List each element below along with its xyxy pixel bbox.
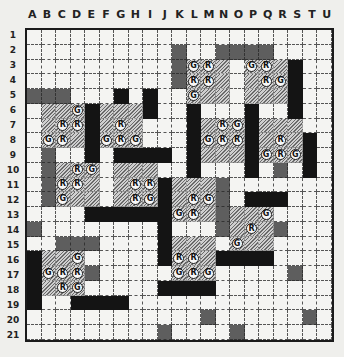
- g-token-icon[interactable]: G: [188, 90, 199, 101]
- board-cell-k5[interactable]: [172, 89, 187, 104]
- board-cell-s13[interactable]: [288, 207, 303, 222]
- board-cell-k6[interactable]: [172, 104, 187, 119]
- board-cell-i11[interactable]: R: [143, 178, 158, 193]
- board-cell-j9[interactable]: [158, 148, 173, 163]
- board-cell-i5[interactable]: [143, 89, 158, 104]
- board-cell-a16[interactable]: [27, 251, 42, 266]
- board-cell-u14[interactable]: [317, 222, 332, 237]
- board-cell-f17[interactable]: [100, 266, 115, 281]
- game-board[interactable]: GRGRRRRGGGRRRRGGRGRGGRRRGRGRGRRRRGRGRGGR…: [25, 28, 334, 342]
- board-cell-b14[interactable]: [42, 222, 57, 237]
- board-cell-a15[interactable]: [27, 237, 42, 252]
- board-cell-r16[interactable]: [274, 251, 289, 266]
- board-cell-o10[interactable]: [230, 163, 245, 178]
- board-cell-a1[interactable]: [27, 30, 42, 45]
- g-token-icon[interactable]: G: [232, 238, 243, 249]
- board-cell-f1[interactable]: [100, 30, 115, 45]
- board-cell-q17[interactable]: [259, 266, 274, 281]
- board-cell-s4[interactable]: [288, 74, 303, 89]
- g-token-icon[interactable]: G: [261, 149, 272, 160]
- board-cell-t15[interactable]: [303, 237, 318, 252]
- board-cell-l12[interactable]: R: [187, 192, 202, 207]
- board-cell-t9[interactable]: [303, 148, 318, 163]
- board-cell-s6[interactable]: [288, 104, 303, 119]
- board-cell-j3[interactable]: [158, 60, 173, 75]
- board-cell-r4[interactable]: G: [274, 74, 289, 89]
- board-cell-i10[interactable]: [143, 163, 158, 178]
- board-cell-h21[interactable]: [129, 325, 144, 340]
- board-cell-k20[interactable]: [172, 310, 187, 325]
- board-cell-d18[interactable]: G: [71, 281, 86, 296]
- board-cell-k2[interactable]: [172, 45, 187, 60]
- g-token-icon[interactable]: G: [275, 76, 286, 87]
- board-cell-o21[interactable]: [230, 325, 245, 340]
- r-token-icon[interactable]: R: [275, 149, 286, 160]
- board-cell-c2[interactable]: [56, 45, 71, 60]
- g-token-icon[interactable]: G: [290, 149, 301, 160]
- board-cell-p19[interactable]: [245, 296, 260, 311]
- board-cell-j16[interactable]: [158, 251, 173, 266]
- board-cell-r8[interactable]: R: [274, 133, 289, 148]
- board-cell-d19[interactable]: [71, 296, 86, 311]
- board-cell-i19[interactable]: [143, 296, 158, 311]
- board-cell-l2[interactable]: [187, 45, 202, 60]
- r-token-icon[interactable]: R: [261, 61, 272, 72]
- board-cell-r9[interactable]: R: [274, 148, 289, 163]
- board-cell-t10[interactable]: [303, 163, 318, 178]
- board-cell-d20[interactable]: [71, 310, 86, 325]
- board-cell-j17[interactable]: [158, 266, 173, 281]
- board-cell-c9[interactable]: [56, 148, 71, 163]
- board-cell-m10[interactable]: [201, 163, 216, 178]
- board-cell-n11[interactable]: [216, 178, 231, 193]
- board-cell-u18[interactable]: [317, 281, 332, 296]
- board-cell-o2[interactable]: [230, 45, 245, 60]
- board-cell-k15[interactable]: [172, 237, 187, 252]
- r-token-icon[interactable]: R: [130, 179, 141, 190]
- board-cell-o15[interactable]: G: [230, 237, 245, 252]
- board-cell-o7[interactable]: G: [230, 119, 245, 134]
- board-cell-q8[interactable]: [259, 133, 274, 148]
- board-cell-l8[interactable]: [187, 133, 202, 148]
- board-cell-t17[interactable]: [303, 266, 318, 281]
- board-cell-o11[interactable]: [230, 178, 245, 193]
- r-token-icon[interactable]: R: [57, 120, 68, 131]
- board-cell-s14[interactable]: [288, 222, 303, 237]
- board-cell-q18[interactable]: [259, 281, 274, 296]
- board-cell-h11[interactable]: R: [129, 178, 144, 193]
- board-cell-j5[interactable]: [158, 89, 173, 104]
- board-cell-k7[interactable]: [172, 119, 187, 134]
- board-cell-a14[interactable]: [27, 222, 42, 237]
- board-cell-h12[interactable]: R: [129, 192, 144, 207]
- board-cell-a18[interactable]: [27, 281, 42, 296]
- board-cell-e1[interactable]: [85, 30, 100, 45]
- board-cell-f11[interactable]: [100, 178, 115, 193]
- board-cell-a5[interactable]: [27, 89, 42, 104]
- board-cell-c7[interactable]: R: [56, 119, 71, 134]
- board-cell-p4[interactable]: [245, 74, 260, 89]
- board-cell-k18[interactable]: [172, 281, 187, 296]
- board-cell-q14[interactable]: [259, 222, 274, 237]
- board-cell-e16[interactable]: [85, 251, 100, 266]
- r-token-icon[interactable]: R: [72, 179, 83, 190]
- board-cell-g20[interactable]: [114, 310, 129, 325]
- board-cell-n10[interactable]: [216, 163, 231, 178]
- board-cell-p21[interactable]: [245, 325, 260, 340]
- board-cell-c6[interactable]: [56, 104, 71, 119]
- board-cell-r10[interactable]: [274, 163, 289, 178]
- board-cell-f2[interactable]: [100, 45, 115, 60]
- board-cell-b12[interactable]: [42, 192, 57, 207]
- r-token-icon[interactable]: R: [130, 194, 141, 205]
- board-cell-e19[interactable]: [85, 296, 100, 311]
- board-cell-l17[interactable]: R: [187, 266, 202, 281]
- board-cell-b21[interactable]: [42, 325, 57, 340]
- board-cell-g17[interactable]: [114, 266, 129, 281]
- board-cell-h2[interactable]: [129, 45, 144, 60]
- board-cell-u8[interactable]: [317, 133, 332, 148]
- r-token-icon[interactable]: R: [188, 194, 199, 205]
- g-token-icon[interactable]: G: [173, 209, 184, 220]
- board-cell-b9[interactable]: [42, 148, 57, 163]
- board-cell-c21[interactable]: [56, 325, 71, 340]
- board-cell-g14[interactable]: [114, 222, 129, 237]
- r-token-icon[interactable]: R: [188, 268, 199, 279]
- board-cell-u4[interactable]: [317, 74, 332, 89]
